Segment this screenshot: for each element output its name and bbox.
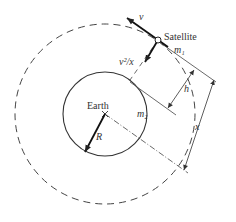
centripetal-label: v²/x	[119, 56, 134, 67]
earth-label: Earth	[87, 100, 109, 111]
mass-earth-label: m₂	[137, 108, 148, 119]
velocity-label: v	[139, 11, 144, 22]
satellite-icon	[155, 37, 161, 43]
acceleration-arrow	[145, 40, 158, 62]
radius-label: R	[95, 131, 102, 142]
satellite-orbit-diagram: v Satellite m₁ v²/x h Earth m₂ R x	[0, 0, 236, 222]
orbit-radius-label: x	[194, 121, 200, 132]
altitude-dimension	[168, 70, 194, 108]
velocity-arrow	[127, 18, 168, 47]
mass-satellite-label: m₁	[174, 44, 185, 55]
satellite-label: Satellite	[164, 31, 197, 42]
satellite-extension-line	[162, 44, 216, 82]
altitude-label: h	[184, 83, 189, 94]
